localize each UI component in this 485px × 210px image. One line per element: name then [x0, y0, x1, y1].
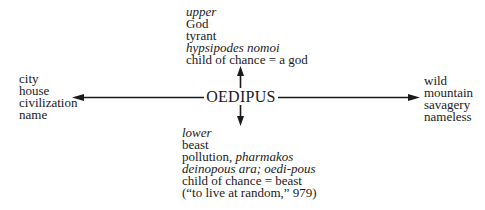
- arrow-down-head-icon: [237, 116, 244, 126]
- left-attributes-block: city house civilization name: [19, 73, 77, 121]
- left-line: name: [19, 109, 77, 121]
- upper-attributes-block: upper God tyrant hypsipodes nomoi child …: [186, 6, 308, 66]
- lower-attributes-block: lower beast pollution, pharmakos deinopo…: [182, 127, 317, 199]
- right-attributes-block: wild mountain savagery nameless: [424, 75, 473, 123]
- right-line: nameless: [424, 111, 473, 123]
- arrow-right-head-icon: [408, 94, 420, 101]
- center-label-oedipus: OEDIPUS: [204, 88, 278, 106]
- bottom-line: (“to live at random,” 979): [182, 187, 317, 199]
- top-line: child of chance = a god: [186, 54, 308, 66]
- arrow-up-head-icon: [237, 66, 244, 76]
